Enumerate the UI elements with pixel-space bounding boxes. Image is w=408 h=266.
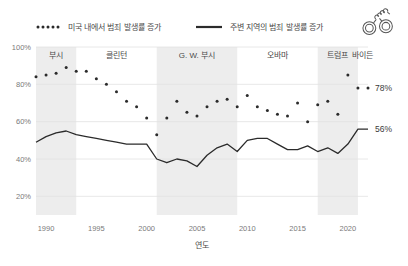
data-point-nationwide [286, 115, 289, 118]
data-point-nationwide [75, 70, 78, 73]
data-point-nationwide [125, 100, 128, 103]
data-point-nationwide [115, 90, 118, 93]
data-point-nationwide [236, 105, 239, 108]
data-point-nationwide [336, 113, 339, 116]
x-tick-label: 2000 [138, 224, 155, 233]
crime-rate-chart: 20%40%60%80%100%199019952000200520102015… [0, 0, 408, 266]
data-point-nationwide [206, 105, 209, 108]
legend-marker-nationwide [42, 26, 45, 29]
era-band-gw-bush [157, 47, 237, 215]
data-point-nationwide [226, 98, 229, 101]
data-point-nationwide [105, 83, 108, 86]
data-point-nationwide [326, 100, 329, 103]
legend-marker-nationwide [47, 26, 50, 29]
data-point-nationwide [85, 70, 88, 73]
data-point-nationwide [346, 74, 349, 77]
data-point-nationwide [316, 103, 319, 106]
data-point-nationwide [195, 115, 198, 118]
era-label-bush: 부시 [49, 51, 63, 60]
legend-marker-nationwide [52, 26, 55, 29]
data-point-nationwide [55, 72, 58, 75]
data-point-nationwide [45, 74, 48, 77]
data-point-nationwide [306, 120, 309, 123]
era-label-clinton: 클린턴 [106, 50, 127, 60]
data-point-nationwide [95, 77, 98, 80]
handcuffs-icon [363, 9, 392, 35]
era-label-obama: 오바마 [267, 50, 289, 60]
chart-canvas: 20%40%60%80%100%199019952000200520102015… [0, 0, 408, 266]
end-value-label-nationwide: 78% [375, 83, 392, 93]
data-point-nationwide [165, 116, 168, 119]
legend-label-local: 주변 지역의 범죄 발생률 증가 [230, 22, 324, 32]
data-point-nationwide [65, 66, 68, 69]
data-point-nationwide [246, 94, 249, 97]
data-point-nationwide [296, 102, 299, 105]
y-tick-label: 40% [16, 155, 31, 164]
x-tick-label: 1995 [88, 224, 105, 233]
y-tick-label: 100% [12, 43, 32, 52]
end-value-label-local: 56% [375, 124, 392, 134]
data-point-nationwide [276, 113, 279, 116]
era-label-gw-bush: G. W. 부시 [179, 51, 215, 60]
era-label-biden: 바이든 [352, 50, 373, 60]
x-tick-label: 2020 [340, 224, 357, 233]
data-point-nationwide [266, 109, 269, 112]
era-band-trump [318, 47, 358, 215]
data-point-nationwide [367, 87, 370, 90]
data-point-nationwide [216, 100, 219, 103]
data-point-nationwide [35, 75, 38, 78]
x-axis-title: 연도 [195, 241, 209, 250]
data-point-nationwide [356, 87, 359, 90]
era-label-trump: 트럼프 [327, 51, 348, 60]
x-tick-label: 2015 [289, 224, 306, 233]
data-point-nationwide [155, 133, 158, 136]
legend-marker-nationwide [57, 26, 60, 29]
data-point-nationwide [135, 105, 138, 108]
y-tick-label: 20% [16, 192, 31, 201]
y-tick-label: 60% [16, 117, 31, 126]
data-point-nationwide [175, 100, 178, 103]
x-tick-label: 1990 [38, 224, 55, 233]
legend-label-nationwide: 미국 내에서 범죄 발생률 증가 [68, 22, 162, 32]
data-point-nationwide [256, 105, 259, 108]
y-tick-label: 80% [16, 80, 31, 89]
legend-marker-nationwide [37, 26, 40, 29]
x-tick-label: 2005 [189, 224, 206, 233]
data-point-nationwide [185, 111, 188, 114]
data-point-nationwide [145, 116, 148, 119]
x-tick-label: 2010 [239, 224, 256, 233]
